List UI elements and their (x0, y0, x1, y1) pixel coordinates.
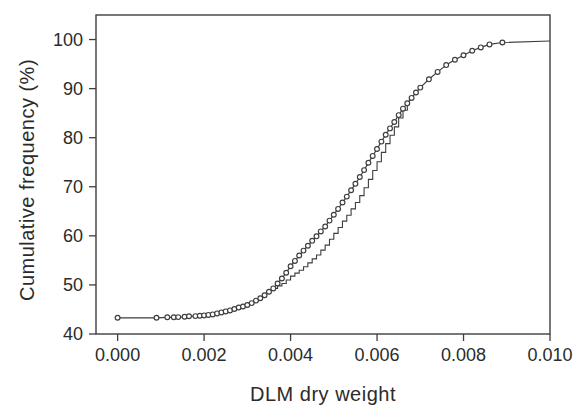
data-point-marker (478, 45, 483, 50)
cumulative-curve-line (118, 41, 550, 318)
y-tick-label: 80 (63, 128, 83, 148)
data-point-marker (418, 85, 423, 90)
y-tick-label: 90 (63, 79, 83, 99)
data-point-marker (487, 42, 492, 47)
data-point-marker (267, 289, 272, 294)
chart-canvas: 0.0000.0020.0040.0060.0080.0104050607080… (0, 0, 586, 418)
data-point-marker (271, 286, 276, 291)
data-point-marker (327, 218, 332, 223)
data-point-marker (427, 77, 432, 82)
x-tick-label: 0.002 (182, 345, 227, 365)
y-axis-title: Cumulative frequency (%) (16, 59, 39, 301)
data-point-marker (396, 113, 401, 118)
data-point-marker (444, 63, 449, 68)
data-point-marker (284, 270, 289, 275)
data-point-marker (362, 168, 367, 173)
x-tick-label: 0.000 (95, 345, 140, 365)
data-point-marker (388, 126, 393, 131)
data-point-marker (357, 175, 362, 180)
data-point-marker (375, 147, 380, 152)
y-tick-label: 60 (63, 226, 83, 246)
data-point-marker (353, 181, 358, 186)
data-point-marker (115, 315, 120, 320)
data-point-marker (176, 315, 181, 320)
x-axis-title: DLM dry weight (96, 383, 550, 406)
data-point-marker (370, 154, 375, 159)
data-point-marker (297, 253, 302, 258)
data-point-marker (401, 106, 406, 111)
data-point-marker (392, 120, 397, 125)
data-point-marker (293, 259, 298, 264)
data-point-marker (280, 276, 285, 281)
data-point-marker (383, 132, 388, 137)
data-point-marker (318, 229, 323, 234)
data-point-marker (275, 281, 280, 286)
data-point-marker (344, 194, 349, 199)
data-point-marker (453, 57, 458, 62)
data-point-marker (331, 212, 336, 217)
data-point-marker (262, 293, 267, 298)
data-point-marker (165, 315, 170, 320)
data-point-marker (336, 207, 341, 212)
data-point-marker (154, 315, 159, 320)
y-tick-label: 100 (53, 30, 83, 50)
data-point-marker (301, 248, 306, 253)
data-point-marker (470, 48, 475, 53)
data-point-marker (500, 40, 505, 45)
data-point-marker (323, 224, 328, 229)
data-point-marker (414, 90, 419, 95)
x-tick-label: 0.010 (527, 345, 572, 365)
data-point-marker (409, 96, 414, 101)
data-point-marker (366, 160, 371, 165)
data-point-marker (310, 238, 315, 243)
data-point-marker (349, 188, 354, 193)
x-tick-label: 0.004 (268, 345, 313, 365)
data-point-marker (288, 264, 293, 269)
data-point-marker (187, 314, 192, 319)
plot-frame (96, 15, 550, 334)
cumulative-frequency-figure: 0.0000.0020.0040.0060.0080.0104050607080… (0, 0, 586, 418)
data-point-marker (435, 70, 440, 75)
data-point-marker (340, 200, 345, 205)
data-point-marker (306, 243, 311, 248)
y-tick-label: 50 (63, 275, 83, 295)
y-tick-label: 70 (63, 177, 83, 197)
x-tick-label: 0.006 (355, 345, 400, 365)
y-tick-label: 40 (63, 324, 83, 344)
data-point-marker (314, 234, 319, 239)
data-point-marker (405, 101, 410, 106)
data-point-marker (379, 139, 384, 144)
x-tick-label: 0.008 (441, 345, 486, 365)
data-point-marker (461, 53, 466, 58)
